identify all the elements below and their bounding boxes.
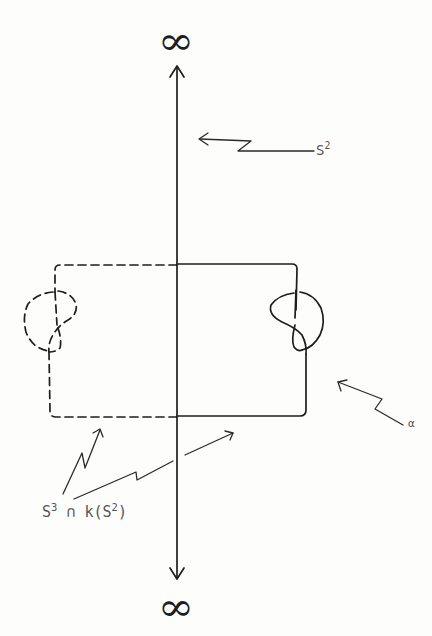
- dashed-knot: [24, 291, 76, 352]
- vertical-axis: [170, 66, 184, 579]
- diagram-drawing: [0, 0, 432, 636]
- sphere-label: S2: [316, 143, 330, 157]
- dashed-loop-left: [49, 265, 177, 417]
- s2-pointer-arrow: [199, 133, 314, 151]
- intersection-pointer-arrows: [63, 429, 233, 499]
- diagram-canvas: ∞ ∞: [0, 0, 432, 636]
- solid-loop-right: [177, 264, 306, 416]
- intersection-label: S3 ∩ k(S2): [42, 505, 127, 520]
- alpha-pointer-arrow: [338, 380, 403, 425]
- alpha-label: α: [408, 418, 415, 429]
